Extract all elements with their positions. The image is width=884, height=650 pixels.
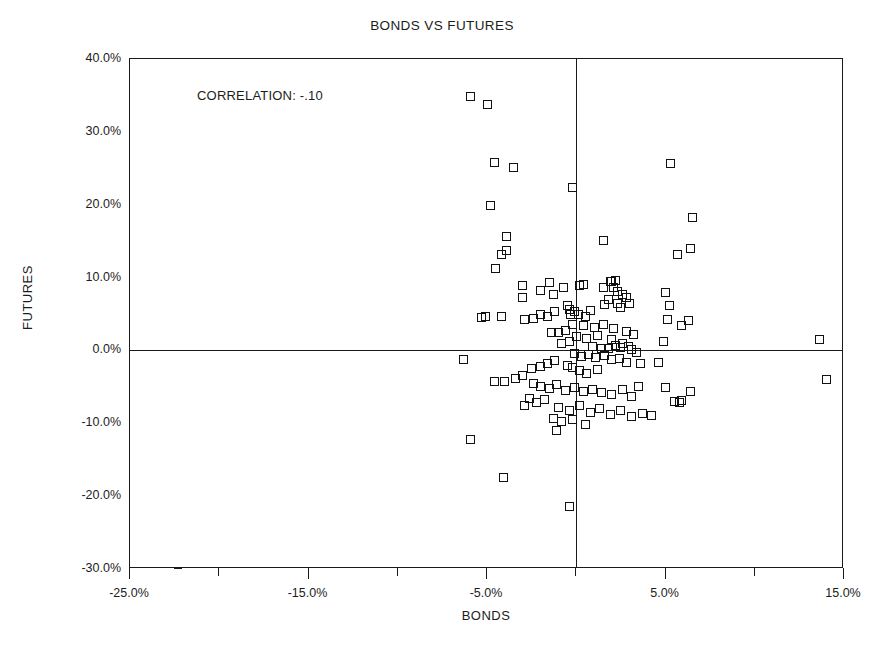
data-point-marker [618, 385, 627, 394]
data-point-marker [557, 417, 566, 426]
data-point-marker [497, 250, 506, 259]
y-tick-label: -30.0% [53, 561, 121, 575]
data-point-marker [529, 314, 538, 323]
data-point-marker [536, 286, 545, 295]
data-point-marker [677, 396, 686, 405]
data-point-marker [593, 331, 602, 340]
data-point-marker [586, 408, 595, 417]
plot-area [129, 58, 843, 568]
data-point-marker [579, 387, 588, 396]
data-point-marker [565, 502, 574, 511]
data-point-marker [545, 278, 554, 287]
y-axis-title: FUTURES [20, 248, 35, 348]
y-tick-label: 40.0% [53, 51, 121, 65]
data-point-marker [490, 158, 499, 167]
data-point-marker [599, 236, 608, 245]
data-point-marker [536, 382, 545, 391]
data-point-marker [549, 290, 558, 299]
x-tick-label: -5.0% [446, 586, 526, 600]
x-tick-mark-major [486, 568, 487, 579]
zero-line-horizontal [130, 350, 842, 351]
data-point-marker [477, 313, 486, 322]
data-point-marker [520, 401, 529, 410]
x-tick-mark-minor [218, 568, 219, 576]
data-point-marker [616, 406, 625, 415]
correlation-annotation: CORRELATION: -.10 [197, 88, 323, 103]
data-point-marker [634, 382, 643, 391]
data-point-marker [609, 324, 618, 333]
data-point-marker [659, 337, 668, 346]
data-point-marker [557, 339, 566, 348]
data-point-marker [559, 283, 568, 292]
data-point-marker [518, 281, 527, 290]
data-point-marker [582, 369, 591, 378]
data-point-marker [600, 300, 609, 309]
data-point-marker [491, 264, 500, 273]
data-point-marker [459, 355, 468, 364]
data-point-marker [509, 163, 518, 172]
y-axis-ticks: 40.0%30.0%20.0%10.0%0.0%-10.0%-20.0%-30.… [53, 58, 121, 568]
data-point-marker [666, 159, 675, 168]
data-point-marker [595, 404, 604, 413]
data-point-marker [586, 306, 595, 315]
data-point-marker [673, 250, 682, 259]
data-point-marker [632, 348, 641, 357]
data-point-marker [561, 386, 570, 395]
data-point-marker [579, 280, 588, 289]
x-tick-label: 15.0% [803, 586, 883, 600]
data-point-marker [593, 365, 602, 374]
data-point-marker [552, 426, 561, 435]
data-point-marker [686, 387, 695, 396]
data-point-marker [607, 390, 616, 399]
x-axis-title: BONDS [129, 608, 843, 623]
data-point-marker [540, 395, 549, 404]
data-point-marker [520, 315, 529, 324]
x-tick-label: 5.0% [625, 586, 705, 600]
data-point-marker [500, 377, 509, 386]
data-point-marker [518, 293, 527, 302]
data-point-marker [688, 213, 697, 222]
data-point-marker [575, 401, 584, 410]
data-point-marker [502, 232, 511, 241]
y-tick-label: -20.0% [53, 488, 121, 502]
data-point-marker [554, 403, 563, 412]
data-point-marker [663, 315, 672, 324]
data-point-marker [636, 359, 645, 368]
y-tick-label: 20.0% [53, 197, 121, 211]
scatter-chart: BONDS VS FUTURES FUTURES 40.0%30.0%20.0%… [0, 0, 884, 650]
data-point-marker [579, 321, 588, 330]
data-point-marker [627, 392, 636, 401]
data-point-marker [622, 358, 631, 367]
x-tick-mark-major [308, 568, 309, 579]
chart-title: BONDS VS FUTURES [0, 18, 884, 33]
data-point-marker [547, 328, 556, 337]
y-tick-label: 0.0% [53, 342, 121, 356]
data-point-marker [611, 276, 620, 285]
data-point-marker [588, 385, 597, 394]
x-tick-mark-minor [754, 568, 755, 576]
data-point-marker [466, 435, 475, 444]
data-point-marker [568, 415, 577, 424]
data-point-marker [511, 374, 520, 383]
y-tick-label: -10.0% [53, 415, 121, 429]
x-tick-mark-major [843, 568, 844, 579]
data-point-marker [686, 244, 695, 253]
data-point-marker [527, 364, 536, 373]
data-point-marker [638, 409, 647, 418]
y-tick-label: 30.0% [53, 124, 121, 138]
data-point-marker [591, 353, 600, 362]
x-tick-mark-major [129, 568, 130, 579]
data-point-marker [490, 377, 499, 386]
data-point-marker [552, 380, 561, 389]
data-point-marker [627, 412, 636, 421]
data-point-marker [568, 183, 577, 192]
data-point-marker [497, 312, 506, 321]
data-point-marker [536, 362, 545, 371]
x-tick-label: -15.0% [268, 586, 348, 600]
data-point-marker [597, 388, 606, 397]
data-point-marker [590, 323, 599, 332]
data-point-marker [665, 301, 674, 310]
data-point-marker [599, 320, 608, 329]
data-point-marker [570, 383, 579, 392]
data-point-marker [661, 288, 670, 297]
